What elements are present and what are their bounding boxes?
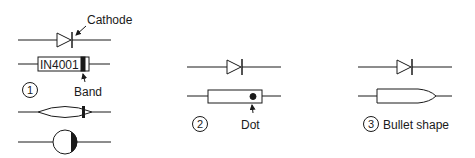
cathode-arrow [76, 26, 86, 35]
dot-arrow [252, 105, 253, 113]
variant-1-number: 1 [27, 84, 33, 96]
band-label: Band [74, 85, 102, 99]
diode-package-bullet [358, 89, 452, 103]
diode-symbol-3 [358, 59, 452, 75]
band-arrow [83, 74, 85, 82]
part-number-label: IN4001 [40, 58, 79, 72]
diode-symbol-2 [187, 59, 281, 75]
variant-3-number: 3 [368, 118, 374, 130]
dot-label: Dot [241, 118, 260, 132]
cathode-label: Cathode [87, 13, 133, 27]
diode-glass-round [18, 130, 111, 154]
cathode-dot [250, 94, 256, 100]
diode-markings-diagram: Cathode IN4001 Band 1 2 Dot [0, 0, 475, 158]
variant-2-number: 2 [197, 118, 203, 130]
diode-glass-ellipse [18, 106, 111, 118]
cathode-band [81, 57, 85, 71]
diode-package-dot [187, 90, 281, 103]
diode-symbol-1 [18, 32, 111, 48]
bullet-shape-label: Bullet shape [383, 118, 449, 132]
